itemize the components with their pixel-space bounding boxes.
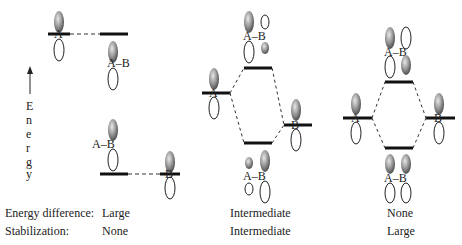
svg-text:A: A <box>209 86 218 100</box>
diagram-intermediate: A–B A B A–B <box>202 11 312 203</box>
value-energy-none: None <box>387 206 413 221</box>
value-stabilization-large: Large <box>387 224 415 239</box>
svg-text:B: B <box>165 167 173 181</box>
row-label-energy-difference: Energy difference: <box>5 206 94 221</box>
arrow-head-icon <box>27 66 33 74</box>
diagram-degenerate: A–B A B A–B <box>343 27 455 203</box>
svg-text:A–B: A–B <box>243 29 266 43</box>
svg-text:B: B <box>291 118 299 132</box>
orbital-interaction-diagram: A A–B E n e r g y A–B B A–B <box>0 0 462 245</box>
svg-text:y: y <box>26 167 32 181</box>
value-energy-large: Large <box>102 206 130 221</box>
svg-text:A–B: A–B <box>107 56 130 70</box>
svg-text:A–B: A–B <box>384 171 407 185</box>
svg-text:A–B: A–B <box>243 169 266 183</box>
svg-text:B: B <box>434 111 442 125</box>
svg-text:A–B: A–B <box>92 137 115 151</box>
svg-text:e: e <box>26 127 31 141</box>
svg-text:A: A <box>54 27 63 41</box>
svg-text:r: r <box>26 141 30 155</box>
p-orbital-lobe-open <box>54 39 64 61</box>
value-energy-intermediate: Intermediate <box>230 206 291 221</box>
svg-text:A: A <box>351 111 360 125</box>
row-label-stabilization: Stabilization: <box>5 224 69 239</box>
svg-text:E: E <box>26 99 33 113</box>
diagram-large-difference: A A–B E n e r g y A–B B <box>26 11 180 199</box>
value-stabilization-intermediate: Intermediate <box>230 224 291 239</box>
svg-text:n: n <box>26 113 32 127</box>
value-stabilization-none: None <box>102 224 128 239</box>
